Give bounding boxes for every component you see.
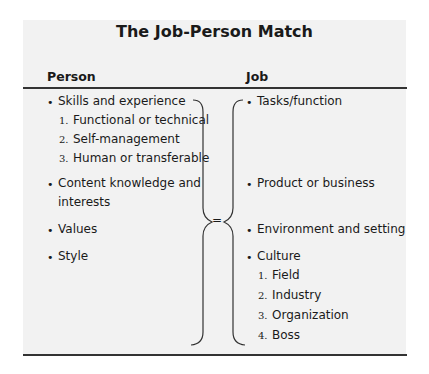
footer-rule xyxy=(23,354,407,356)
equals-symbol: = xyxy=(212,211,222,230)
brace-connector-icon xyxy=(0,0,429,374)
